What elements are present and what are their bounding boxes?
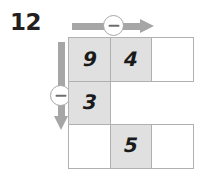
cell-value: 4 [124, 47, 139, 71]
cell-value: 5 [124, 133, 139, 157]
grid-cell-r1c2[interactable]: 4 [110, 37, 153, 82]
grid-cell-r2c2 [110, 81, 151, 124]
cell-value: 9 [82, 47, 97, 71]
minus-glyph [108, 24, 119, 27]
minus-glyph [55, 94, 66, 97]
grid-cell-r1c1[interactable]: 9 [68, 37, 111, 82]
grid-cell-r2c1[interactable]: 3 [68, 81, 111, 126]
grid-cell-r2c3 [152, 81, 193, 124]
arrow-head [54, 116, 68, 130]
grid-cell-r1c3[interactable] [151, 37, 194, 82]
problem-number-label: 12 [10, 11, 41, 34]
worksheet-canvas: 12 9 4 3 [0, 0, 209, 181]
horizontal-minus-circle-icon[interactable] [103, 15, 124, 36]
arrow-head [140, 19, 154, 33]
grid-cell-r3c2[interactable]: 5 [110, 124, 153, 169]
cell-value: 3 [82, 90, 97, 114]
number-grid: 9 4 3 5 [69, 38, 193, 168]
grid-cell-r3c1[interactable] [68, 124, 111, 169]
grid-cell-r3c3[interactable] [151, 124, 194, 169]
